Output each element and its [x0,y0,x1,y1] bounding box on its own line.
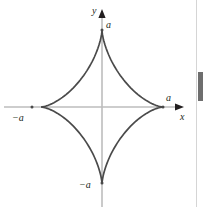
cusp-point-bottom [101,182,104,185]
label-a-right: a [166,93,171,103]
x-axis-label: x [180,112,184,122]
y-axis-label: y [92,6,96,16]
plot-canvas [0,0,203,207]
label-negative-a-bottom: −a [79,180,91,190]
cusp-point-top [101,29,104,32]
cusp-point-left [31,106,34,109]
vertical-scrollbar[interactable] [196,0,203,207]
x-axis-arrowhead [175,103,184,110]
cusp-point-right [162,106,165,109]
y-axis-arrowhead [98,9,105,18]
label-negative-a-left: −a [12,113,24,123]
astroid-figure: y x a a −a −a [0,0,203,207]
scrollbar-thumb[interactable] [198,72,203,101]
label-a-top: a [106,20,111,30]
